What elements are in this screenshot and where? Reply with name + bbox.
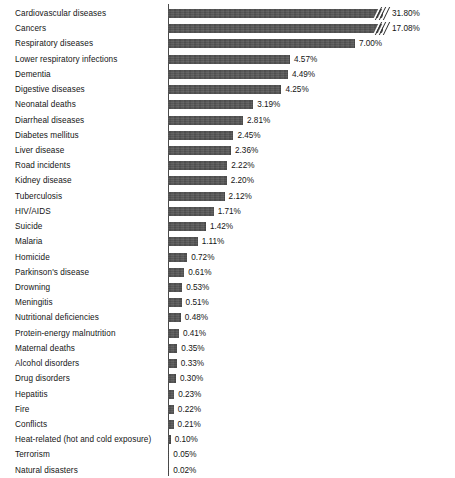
category-label: Protein-energy malnutrition (15, 326, 116, 341)
value-label: 0.48% (185, 310, 208, 325)
bar-row: Hepatitis0.23% (0, 387, 455, 402)
bar (168, 450, 169, 459)
bar-row: Terrorism0.05% (0, 447, 455, 462)
value-label: 0.51% (186, 295, 209, 310)
value-label: 0.05% (173, 447, 196, 462)
category-label: HIV/AIDS (15, 204, 51, 219)
bar-row: Cardiovascular diseases31.80% (0, 6, 455, 21)
category-label: Homicide (15, 250, 50, 265)
category-label: Meningitis (15, 295, 53, 310)
bar-row: Protein-energy malnutrition0.41% (0, 326, 455, 341)
value-label: 0.41% (183, 326, 206, 341)
bar-row: Tuberculosis2.12% (0, 189, 455, 204)
value-label: 0.21% (178, 417, 201, 432)
bar-row: Diabetes mellitus2.45% (0, 128, 455, 143)
bar-row: Nutritional deficiencies0.48% (0, 310, 455, 325)
bar (168, 374, 176, 383)
bar-row: Drug disorders0.30% (0, 371, 455, 386)
bar-row: Neonatal deaths3.19% (0, 97, 455, 112)
bar (168, 207, 214, 216)
category-label: Hepatitis (15, 387, 48, 402)
value-label: 2.22% (231, 158, 254, 173)
value-label: 0.72% (191, 250, 214, 265)
bar (168, 237, 198, 246)
bar-row: Lower respiratory infections4.57% (0, 52, 455, 67)
bar (168, 192, 225, 201)
category-label: Kidney disease (15, 173, 72, 188)
bar-row: Digestive diseases4.25% (0, 82, 455, 97)
value-label: 7.00% (359, 36, 382, 51)
bar (168, 176, 227, 185)
value-label: 0.02% (173, 463, 196, 478)
category-label: Fire (15, 402, 29, 417)
category-label: Tuberculosis (15, 189, 62, 204)
value-label: 0.35% (181, 341, 204, 356)
bar-row: HIV/AIDS1.71% (0, 204, 455, 219)
bar-row: Road incidents2.22% (0, 158, 455, 173)
bar (168, 100, 253, 109)
category-label: Conflicts (15, 417, 47, 432)
value-label: 1.71% (218, 204, 241, 219)
bar (168, 405, 174, 414)
value-label: 0.10% (175, 432, 198, 447)
category-label: Suicide (15, 219, 42, 234)
bar-row: Homicide0.72% (0, 250, 455, 265)
category-label: Cancers (15, 21, 46, 36)
category-label: Respiratory diseases (15, 36, 93, 51)
bar-row: Drowning0.53% (0, 280, 455, 295)
bar (168, 390, 174, 399)
bar (168, 313, 181, 322)
category-label: Neonatal deaths (15, 97, 76, 112)
axis-break-icon (375, 7, 389, 20)
bar-row: Liver disease2.36% (0, 143, 455, 158)
value-label: 0.30% (180, 371, 203, 386)
value-label: 1.42% (210, 219, 233, 234)
value-label: 3.19% (257, 97, 280, 112)
bar-row: Meningitis0.51% (0, 295, 455, 310)
bar (168, 222, 206, 231)
bar (168, 359, 177, 368)
bar (168, 9, 383, 18)
bar (168, 283, 182, 292)
value-label: 4.49% (292, 67, 315, 82)
category-label: Alcohol disorders (15, 356, 79, 371)
value-label: 1.11% (202, 234, 225, 249)
bar (168, 70, 288, 79)
bar-row: Kidney disease2.20% (0, 173, 455, 188)
bar (168, 420, 174, 429)
bar (168, 161, 227, 170)
category-label: Maternal deaths (15, 341, 75, 356)
bar (168, 85, 281, 94)
bar (168, 329, 179, 338)
bar-row: Diarrheal diseases2.81% (0, 113, 455, 128)
bar (168, 146, 231, 155)
value-label: 2.45% (237, 128, 260, 143)
value-label: 0.33% (181, 356, 204, 371)
bar-row: Fire0.22% (0, 402, 455, 417)
value-label: 31.80% (392, 6, 420, 21)
bar-row: Conflicts0.21% (0, 417, 455, 432)
bar-row: Suicide1.42% (0, 219, 455, 234)
category-label: Terrorism (15, 447, 50, 462)
bar (168, 253, 187, 262)
value-label: 4.57% (294, 52, 317, 67)
category-label: Drug disorders (15, 371, 70, 386)
bar (168, 298, 182, 307)
value-label: 0.53% (186, 280, 209, 295)
category-label: Cardiovascular diseases (15, 6, 106, 21)
bar-row: Cancers17.08% (0, 21, 455, 36)
bar-row: Heat-related (hot and cold exposure)0.10… (0, 432, 455, 447)
bar (168, 24, 383, 33)
bar (168, 116, 243, 125)
category-label: Malaria (15, 234, 42, 249)
category-label: Dementia (15, 67, 51, 82)
value-label: 2.81% (247, 113, 270, 128)
value-label: 0.61% (188, 265, 211, 280)
category-label: Parkinson's disease (15, 265, 89, 280)
value-label: 0.22% (178, 402, 201, 417)
bar (168, 466, 169, 475)
bar-row: Maternal deaths0.35% (0, 341, 455, 356)
bar-row: Natural disasters0.02% (0, 463, 455, 478)
category-label: Digestive diseases (15, 82, 85, 97)
